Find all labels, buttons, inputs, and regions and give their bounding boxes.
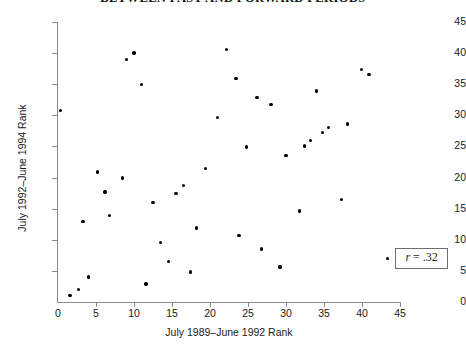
data-point <box>327 126 330 129</box>
data-point <box>315 89 318 92</box>
data-point <box>87 275 90 278</box>
y-tick-label: 10 <box>420 234 466 245</box>
data-point <box>132 51 135 54</box>
data-point <box>278 265 281 268</box>
y-tick-label: 45 <box>420 16 466 27</box>
data-point <box>125 58 128 61</box>
correlation-annotation: r = .32 <box>395 248 447 269</box>
y-tick-label: 40 <box>420 47 466 58</box>
data-point <box>255 96 258 99</box>
data-point <box>68 294 71 297</box>
x-tick-label: 5 <box>76 308 116 319</box>
data-point <box>103 190 106 193</box>
x-tick-label: 45 <box>380 308 420 319</box>
y-tick-label: 15 <box>420 203 466 214</box>
data-point <box>159 241 162 244</box>
x-tick-label: 0 <box>38 308 78 319</box>
correlation-equals: = <box>413 250 423 264</box>
data-point <box>144 282 147 285</box>
x-tick-label: 25 <box>228 308 268 319</box>
x-tick-label: 40 <box>342 308 382 319</box>
data-point <box>96 170 99 173</box>
data-point <box>303 144 306 147</box>
plot-area <box>58 22 400 302</box>
y-tick-label: 20 <box>420 172 466 183</box>
correlation-symbol: r <box>405 250 410 264</box>
x-tick-label: 35 <box>304 308 344 319</box>
x-axis-title: July 1989–June 1992 Rank <box>58 326 400 338</box>
data-point <box>174 192 177 195</box>
x-tick-label: 15 <box>152 308 192 319</box>
data-point <box>237 234 240 237</box>
data-point <box>151 201 154 204</box>
data-point <box>81 220 84 223</box>
data-point <box>340 198 343 201</box>
y-tick-label: 25 <box>420 140 466 151</box>
data-point <box>269 103 272 106</box>
data-point <box>140 83 143 86</box>
data-point <box>321 131 324 134</box>
data-point <box>121 176 124 179</box>
x-tick-label: 10 <box>114 308 154 319</box>
data-point <box>108 214 111 217</box>
data-point <box>216 116 219 119</box>
y-axis-title: July 1992–June 1994 Rank <box>16 68 28 268</box>
legend-marker-icon <box>386 257 389 260</box>
legend: r = .32 <box>386 248 448 269</box>
data-point <box>245 145 248 148</box>
scatter-plot-figure: BETWEEN PAST AND FORWARD PERIODS 0510152… <box>0 0 466 352</box>
data-point <box>284 154 287 157</box>
x-tick-label: 30 <box>266 308 306 319</box>
x-axis-line <box>57 302 401 303</box>
data-point <box>260 247 263 250</box>
data-point <box>59 109 62 112</box>
y-tick-label: 30 <box>420 109 466 120</box>
data-point <box>298 209 301 212</box>
data-point <box>309 139 312 142</box>
data-point <box>367 73 370 76</box>
y-tick-label: 35 <box>420 78 466 89</box>
data-point <box>77 288 80 291</box>
chart-title: BETWEEN PAST AND FORWARD PERIODS <box>0 0 466 6</box>
data-point <box>204 167 207 170</box>
data-point <box>225 48 228 51</box>
data-point <box>346 122 349 125</box>
data-point <box>195 226 198 229</box>
data-point <box>189 270 192 273</box>
data-point <box>360 68 363 71</box>
x-tick-label: 20 <box>190 308 230 319</box>
data-point <box>234 77 237 80</box>
y-tick-label: 0 <box>420 296 466 307</box>
data-point <box>182 184 185 187</box>
data-point <box>167 260 170 263</box>
correlation-value: .32 <box>423 250 438 264</box>
